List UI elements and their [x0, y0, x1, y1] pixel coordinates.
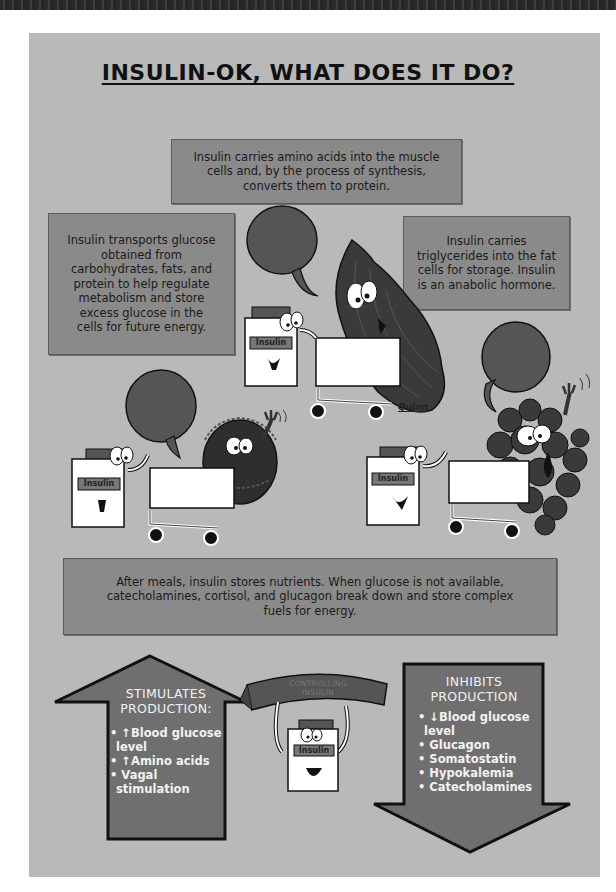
list-item: level [110, 740, 226, 754]
stimulates-text: STIMULATES PRODUCTION: • ↑Blood glucose … [106, 686, 226, 796]
artist-signature: Quinn [398, 402, 428, 412]
glucose-transport-box: Insulin transports glucose obtained from… [48, 213, 235, 355]
bubble-line: I'm a [135, 390, 187, 401]
box-line: cells and, by the process of synthesis, [193, 164, 439, 179]
box-line: converts them to protein. [193, 179, 439, 194]
tissue-bubble-text: I'm a tissue cell. [135, 390, 187, 423]
triglycerides-box: Insulin carries triglycerides into the f… [403, 216, 570, 310]
muscle-bubble-text: I'm a muscle cell. [256, 225, 308, 258]
box-line: fuels for energy. [107, 604, 514, 619]
list-item: stimulation [110, 782, 226, 796]
bubble-line: I'm an [488, 341, 544, 352]
box-line: Insulin carries amino acids into the mus… [193, 150, 439, 165]
list-item: level [418, 724, 534, 738]
list-item: • ↓Blood glucose [418, 710, 534, 724]
inhibits-heading: INHIBITS PRODUCTION [414, 674, 534, 704]
insulin-label: Insulin [78, 479, 120, 488]
box-line: obtained from [67, 248, 215, 263]
box-line: carbohydrates, fats, and [67, 262, 215, 277]
controlling-banner-text: CONTROLLING INSULIN [268, 679, 368, 697]
box-line: cells for future energy. [67, 320, 215, 335]
box-line: Insulin carries [417, 234, 556, 249]
list-item: • Glucagon [418, 738, 534, 752]
list-item: • Hypokalemia [418, 766, 534, 780]
bubble-line: I'm a [256, 225, 308, 236]
list-item: • Somatostatin [418, 752, 534, 766]
list-item: • ↑Amino acids [110, 754, 226, 768]
list-item: • ↑Blood glucose [110, 726, 226, 740]
box-line: Insulin transports glucose [67, 233, 215, 248]
heading-line: STIMULATES [106, 686, 226, 701]
list-item: • Catecholamines [418, 780, 534, 794]
insulin-label: Insulin [372, 474, 414, 483]
adipose-bubble-text: I'm an adipose cell. [488, 341, 544, 374]
insulin-label: Insulin [250, 338, 292, 347]
bubble-line: cell. [135, 412, 187, 423]
box-line: After meals, insulin stores nutrients. W… [107, 575, 514, 590]
inhibits-text: INHIBITS PRODUCTION • ↓Blood glucose lev… [414, 674, 534, 794]
box-line: is an anabolic hormone. [417, 278, 556, 293]
box-line: protein to help regulate [67, 277, 215, 292]
banner-line: INSULIN [268, 688, 368, 697]
inhibits-list: • ↓Blood glucose level • Glucagon • Soma… [414, 710, 534, 794]
heading-line: INHIBITS [414, 674, 534, 689]
box-line: triglycerides into the fat [417, 249, 556, 264]
banner-line: CONTROLLING [268, 679, 368, 688]
stimulates-heading: STIMULATES PRODUCTION: [106, 686, 226, 716]
bubble-line: muscle [256, 236, 308, 247]
poster-title: INSULIN-OK, WHAT DOES IT DO? [0, 60, 616, 85]
bubble-line: tissue [135, 401, 187, 412]
muscle-protein-box: Insulin carries amino acids into the mus… [171, 139, 462, 204]
top-border-band [0, 0, 616, 10]
box-line: excess glucose in the [67, 306, 215, 321]
bubble-line: cell. [488, 363, 544, 374]
list-item: • Vagal [110, 768, 226, 782]
heading-line: PRODUCTION: [106, 701, 226, 716]
after-meals-box: After meals, insulin stores nutrients. W… [63, 558, 557, 635]
box-line: metabolism and store [67, 291, 215, 306]
bubble-line: adipose [488, 352, 544, 363]
stimulates-list: • ↑Blood glucose level • ↑Amino acids • … [106, 726, 226, 796]
heading-line: PRODUCTION [414, 689, 534, 704]
insulin-label: Insulin [294, 746, 334, 755]
bubble-line: cell. [256, 247, 308, 258]
box-line: catecholamines, cortisol, and glucagon b… [107, 589, 514, 604]
box-line: cells for storage. Insulin [417, 263, 556, 278]
